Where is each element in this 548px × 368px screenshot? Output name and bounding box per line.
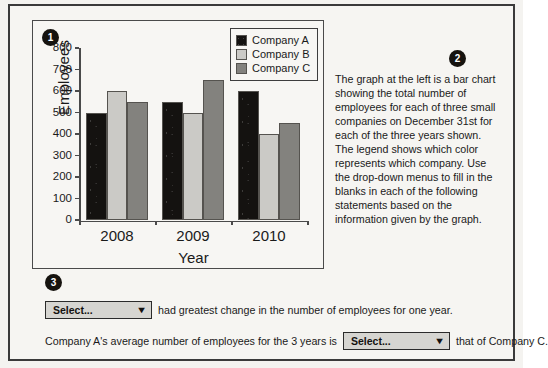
answer-dropdown-2[interactable]: Select... ▼ (343, 332, 450, 350)
chart-x-axis-line (79, 221, 308, 223)
chart-bar (259, 134, 280, 220)
chart-x-tick-label: 2008 (87, 227, 147, 244)
chart-bar (238, 91, 259, 220)
chart-x-tick-mark (79, 221, 81, 225)
chevron-down-icon: ▼ (434, 337, 445, 346)
chart-y-tick-label: 200 (53, 171, 75, 183)
chart-legend: Company ACompany BCompany C (230, 28, 318, 81)
chart-bar (127, 102, 148, 220)
chevron-down-icon: ▼ (136, 306, 147, 315)
chart-bar (183, 113, 204, 221)
chart-x-tick-label: 2009 (163, 227, 223, 244)
chart-bar (162, 102, 183, 220)
chart-legend-label: Company C (252, 63, 310, 74)
chart-y-tick-label: 600 (53, 85, 75, 97)
chart-x-tick-label: 2010 (239, 227, 299, 244)
dropdown-selected-value: Select... (53, 305, 93, 316)
chart-legend-item: Company A (236, 33, 310, 47)
chart-x-tick-mark (307, 221, 309, 225)
answer-dropdown-1[interactable]: Select... ▼ (45, 301, 152, 319)
badge-number: 3 (45, 274, 62, 291)
statement-row-1: Select... ▼ had greatest change in the n… (45, 301, 453, 319)
statement-1-text: had greatest change in the number of emp… (158, 304, 453, 316)
step-badge-2: 2 (449, 50, 466, 67)
dropdown-selected-value: Select... (351, 336, 391, 347)
chart-bar (107, 91, 128, 220)
badge-number: 2 (449, 50, 466, 67)
chart-x-tick-mark (155, 221, 157, 225)
chart-y-tick-label: 500 (53, 106, 75, 118)
chart-x-tick-mark (231, 221, 233, 225)
chart-y-tick-label: 300 (53, 149, 75, 161)
chart-y-tick-label: 0 (66, 214, 75, 226)
chart-y-tick-label: 100 (53, 192, 75, 204)
chart-legend-label: Company B (252, 49, 309, 60)
chart-x-axis-title: Year (79, 249, 308, 266)
statement-2-text-before: Company A's average number of employees … (45, 335, 337, 347)
step-badge-3: 3 (45, 274, 62, 291)
chart-legend-item: Company B (236, 47, 310, 61)
chart-bar (203, 80, 224, 220)
chart-panel: 1 Employees 8007006005004003002001000 20… (32, 20, 324, 269)
chart-y-tick-label: 400 (53, 128, 75, 140)
exercise-outer-frame: 1 Employees 8007006005004003002001000 20… (8, 4, 515, 361)
chart-y-tick-label: 800 (53, 42, 75, 54)
chart-legend-label: Company A (252, 35, 309, 46)
chart-bar (86, 113, 107, 221)
chart-legend-swatch (236, 63, 247, 74)
questions-section: 3 Select... ▼ had greatest change in the… (32, 274, 501, 356)
chart-y-tick-label: 700 (53, 63, 75, 75)
chart-legend-swatch (236, 49, 247, 60)
statement-2-text-after: that of Company C. (456, 335, 548, 347)
chart-bar (279, 123, 300, 220)
chart-legend-swatch (236, 35, 247, 46)
description-paragraph: The graph at the left is a bar chart sho… (335, 72, 498, 227)
chart-legend-item: Company C (236, 61, 310, 75)
description-panel: 2 The graph at the left is a bar chart s… (335, 20, 501, 269)
statement-row-2: Company A's average number of employees … (45, 332, 548, 350)
